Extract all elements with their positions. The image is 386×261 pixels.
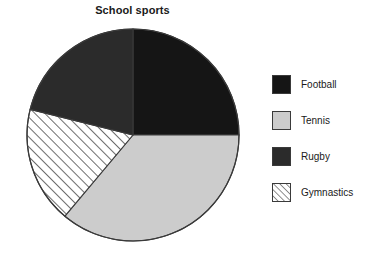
legend-swatch-football-icon — [272, 75, 291, 94]
legend-item-rugby[interactable]: Rugby — [272, 138, 386, 174]
legend-label-tennis: Tennis — [301, 115, 330, 126]
legend-item-gymnastics[interactable]: Gymnastics — [272, 174, 386, 210]
legend-swatch-tennis-icon — [272, 111, 291, 130]
pie-chart-figure: School sports Football Tennis Rugby — [0, 0, 386, 261]
legend-swatch-rugby-icon — [272, 147, 291, 166]
legend-item-tennis[interactable]: Tennis — [272, 102, 386, 138]
pie-slice-football[interactable] — [133, 29, 239, 135]
legend-label-football: Football — [301, 79, 337, 90]
legend-label-rugby: Rugby — [301, 151, 330, 162]
chart-legend: Football Tennis Rugby Gymnastics — [272, 66, 386, 210]
pie-slices-group — [27, 29, 239, 241]
legend-item-football[interactable]: Football — [272, 66, 386, 102]
legend-swatch-gymnastics-icon — [272, 183, 291, 202]
legend-label-gymnastics: Gymnastics — [301, 187, 353, 198]
